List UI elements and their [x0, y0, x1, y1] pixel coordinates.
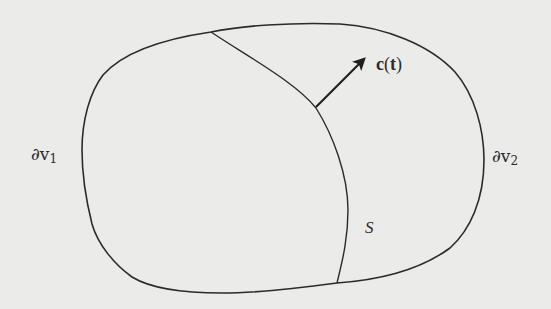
boundary-v1-symbol: ∂v	[31, 144, 49, 164]
boundary-v1-label: ∂v1	[31, 146, 57, 165]
vector-c-close-paren: )	[396, 54, 402, 74]
diagram-svg	[0, 0, 551, 309]
outer-boundary	[82, 23, 484, 293]
boundary-v2-subscript: 2	[510, 154, 518, 168]
vector-c-name: c	[376, 54, 384, 74]
vector-c-label: c(t)	[376, 55, 402, 73]
vector-c-arrow	[316, 59, 364, 107]
boundary-v2-label: ∂v2	[492, 148, 518, 167]
surface-s-label: S	[365, 219, 374, 236]
boundary-v1-subscript: 1	[49, 152, 57, 166]
boundary-v2-symbol: ∂v	[492, 146, 510, 166]
diagram-canvas: ∂v1 ∂v2 c(t) S	[0, 0, 551, 309]
surface-s	[211, 32, 348, 283]
